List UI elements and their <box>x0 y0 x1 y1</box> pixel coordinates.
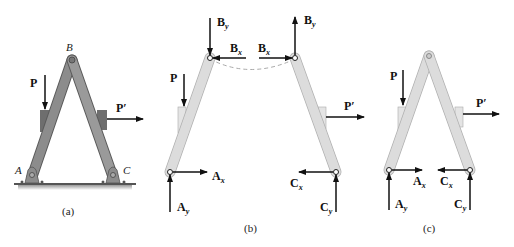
frame-diagram: P P′ B A C (a) By Bx P Ax Ay <box>0 0 514 247</box>
svg-text:P: P <box>170 71 177 85</box>
point-c-label: C <box>123 164 131 176</box>
caption-a: (a) <box>62 205 75 218</box>
svg-text:Ax: Ax <box>413 174 426 190</box>
svg-text:Cx: Cx <box>290 176 303 192</box>
pin-a-icon <box>387 168 392 173</box>
load-p-label: P <box>30 76 37 90</box>
svg-text:By: By <box>217 15 229 31</box>
svg-text:By: By <box>304 13 316 29</box>
pin-c-icon <box>111 173 116 178</box>
svg-text:Cy: Cy <box>454 197 467 213</box>
member-bc <box>295 58 336 172</box>
svg-text:P′: P′ <box>344 99 355 113</box>
point-a-label: A <box>14 164 22 176</box>
separation-arc <box>210 59 295 70</box>
panel-c: P P′ Ax Cx Ay Cy (c) <box>387 54 500 236</box>
member-bc <box>429 56 470 170</box>
panel-b: By Bx P Ax Ay By Bx P′ Cx Cy (b) <box>168 13 365 235</box>
svg-text:Ay: Ay <box>395 197 408 213</box>
svg-text:Ax: Ax <box>212 169 225 185</box>
svg-text:P′: P′ <box>476 96 487 110</box>
load-p-prime-label: P′ <box>116 101 127 115</box>
svg-text:P: P <box>390 69 397 83</box>
pin-b-left-icon <box>208 56 213 61</box>
pin-b-icon <box>427 54 432 59</box>
pin-b-icon <box>69 57 75 63</box>
ground-shadow <box>18 185 132 190</box>
svg-text:Cy: Cy <box>320 200 333 216</box>
member-ab <box>32 60 72 177</box>
svg-text:Ay: Ay <box>177 200 190 216</box>
svg-text:Bx: Bx <box>258 41 270 57</box>
caption-b: (b) <box>244 222 257 235</box>
pin-c-icon <box>468 168 473 173</box>
svg-text:Bx: Bx <box>230 41 242 57</box>
pin-a-icon <box>30 173 35 178</box>
point-b-label: B <box>66 41 73 53</box>
caption-c: (c) <box>423 222 436 235</box>
pin-b-right-icon <box>293 56 298 61</box>
panel-a: P P′ B A C (a) <box>14 41 143 218</box>
pin-c-icon <box>334 170 339 175</box>
svg-text:Cx: Cx <box>440 174 453 190</box>
pin-a-icon <box>168 170 173 175</box>
